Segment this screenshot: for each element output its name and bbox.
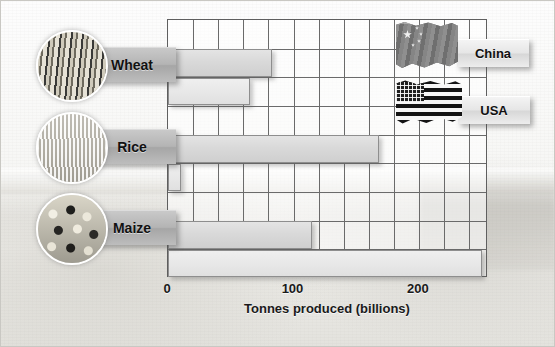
legend-item-china: China — [396, 22, 546, 78]
crop-plaque-label: Maize — [113, 220, 151, 236]
china-flag-icon — [396, 22, 458, 68]
wheat-photo-icon — [36, 30, 108, 102]
chart-page: 0100200 Tonnes produced (billions) Wheat… — [0, 0, 555, 347]
bar-rice-china — [168, 135, 379, 163]
crop-plaque-label: Rice — [117, 139, 147, 155]
legend-item-usa: USA — [396, 80, 546, 136]
crop-label-maize: Maize — [36, 193, 176, 267]
maize-photo-icon — [36, 193, 108, 265]
usa-flag-icon — [396, 80, 462, 124]
legend-label: China — [475, 46, 511, 61]
x-tick-label: 0 — [163, 281, 170, 296]
gridline-horizontal — [168, 192, 486, 193]
legend-plaque-china: China — [457, 39, 529, 67]
gridline-horizontal — [168, 163, 486, 164]
crop-label-wheat: Wheat — [36, 30, 176, 104]
bar-maize-usa — [168, 250, 482, 278]
legend-plaque-usa: USA — [458, 96, 530, 124]
x-tick-label: 200 — [407, 281, 429, 296]
legend-label: USA — [480, 103, 507, 118]
crop-plaque-label: Wheat — [111, 57, 153, 73]
x-axis-title: Tonnes produced (billions) — [167, 301, 487, 316]
bar-wheat-china — [168, 49, 272, 77]
rice-photo-icon — [36, 112, 108, 184]
crop-label-rice: Rice — [36, 112, 176, 186]
x-tick-label: 100 — [282, 281, 304, 296]
bar-wheat-usa — [168, 78, 250, 106]
bar-maize-china — [168, 221, 312, 249]
